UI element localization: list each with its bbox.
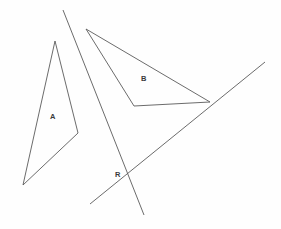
geometry-figure: A B R: [0, 0, 281, 229]
triangle-b-shape: [86, 29, 210, 106]
geometry-canvas: [0, 0, 281, 229]
steep-line: [63, 10, 144, 215]
intersection-point-r-label: R: [115, 171, 121, 179]
triangle-b-label: B: [141, 75, 147, 83]
triangle-a-label: A: [50, 113, 56, 121]
